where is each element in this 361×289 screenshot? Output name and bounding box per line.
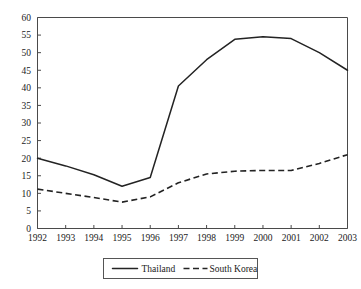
- y-axis-tick-label: 20: [22, 154, 32, 164]
- x-axis-tick-label: 1996: [141, 233, 160, 243]
- y-axis-tick-label: 25: [22, 136, 32, 146]
- x-axis-tick-label: 1998: [197, 233, 216, 243]
- y-axis-tick-label: 15: [22, 171, 32, 181]
- y-axis-tick-label: 5: [26, 206, 31, 216]
- x-axis-tick-label: 1992: [28, 233, 47, 243]
- y-axis-tick-label: 35: [22, 101, 32, 111]
- y-axis-tick-label: 30: [22, 118, 32, 128]
- chart-legend: Thailand South Korea: [104, 259, 259, 279]
- x-axis-tick-group: 1992199319941995199619971998199920002001…: [28, 225, 357, 243]
- y-axis-tick-group: 051015202530354045505560: [22, 13, 42, 234]
- x-axis-tick-label: 1999: [225, 233, 244, 243]
- y-axis-tick-label: 55: [22, 30, 32, 40]
- y-axis-tick-label: 10: [22, 189, 32, 199]
- line-chart: 051015202530354045505560 199219931994199…: [0, 0, 361, 289]
- y-axis-tick-label: 50: [22, 48, 32, 58]
- series-line-south-korea: [38, 155, 348, 202]
- series-line-thailand: [38, 37, 348, 186]
- x-axis-tick-label: 2003: [338, 233, 357, 243]
- legend-label-thailand: Thailand: [142, 264, 176, 274]
- x-axis-tick-label: 2002: [310, 233, 329, 243]
- y-axis-tick-label: 45: [22, 66, 32, 76]
- y-axis-tick-label: 40: [22, 83, 32, 93]
- legend-label-south-korea: South Korea: [210, 264, 259, 274]
- x-axis-tick-label: 2001: [282, 233, 301, 243]
- x-axis-tick-label: 1993: [56, 233, 75, 243]
- x-axis-tick-label: 1997: [169, 233, 188, 243]
- x-axis-tick-label: 1995: [113, 233, 132, 243]
- x-axis-tick-label: 1994: [84, 233, 103, 243]
- y-axis-tick-label: 60: [22, 13, 32, 23]
- chart-container: 051015202530354045505560 199219931994199…: [0, 0, 361, 289]
- plot-frame: [38, 18, 348, 229]
- x-axis-tick-label: 2000: [253, 233, 272, 243]
